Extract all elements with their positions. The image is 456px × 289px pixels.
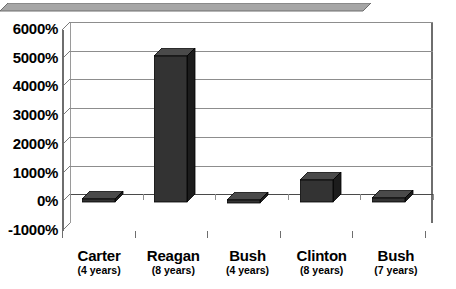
x-tick-back: [360, 194, 361, 200]
x-tick-back: [288, 194, 289, 200]
category-term: (4 years): [210, 265, 284, 276]
y-tick-label: -1000%: [8, 221, 58, 238]
category-term: (8 years): [285, 265, 359, 276]
y-tick-label: 2000%: [13, 135, 58, 152]
y-tick-label: 0%: [37, 192, 58, 209]
bar-bush-2: [227, 192, 270, 205]
y-tick-label: 6000%: [13, 20, 58, 37]
x-tick: [280, 231, 281, 238]
bar-clinton-3: [300, 172, 343, 204]
x-tick: [135, 231, 136, 238]
x-tick-back: [70, 194, 71, 200]
x-tick-back: [433, 194, 434, 200]
chart-floor: [0, 0, 456, 18]
category-name: Bush: [359, 248, 433, 264]
bar-bush-4: [372, 190, 415, 204]
category-label-2: Bush(4 years): [210, 248, 284, 288]
bar-series: [62, 30, 425, 231]
x-tick: [62, 231, 63, 238]
category-term: (7 years): [359, 265, 433, 276]
x-axis-category-labels: Carter(4 years)Reagan(8 years)Bush(4 yea…: [62, 248, 433, 288]
gridline: [70, 22, 433, 23]
x-tick: [425, 231, 426, 238]
category-term: (8 years): [136, 265, 210, 276]
y-tick-label: 4000%: [13, 77, 58, 94]
chart-canvas: 6000%5000%4000%3000%2000%1000%0%-1000% C…: [0, 0, 456, 289]
y-tick-label: 1000%: [13, 164, 58, 181]
x-tick-back: [215, 194, 216, 200]
bar-carter-0: [82, 191, 125, 204]
category-name: Carter: [62, 248, 136, 264]
x-tick: [207, 231, 208, 238]
category-label-0: Carter(4 years): [62, 248, 136, 288]
category-name: Clinton: [285, 248, 359, 264]
category-name: Bush: [210, 248, 284, 264]
x-tick: [352, 231, 353, 238]
category-label-1: Reagan(8 years): [136, 248, 210, 288]
bar-reagan-1: [154, 48, 197, 204]
category-label-4: Bush(7 years): [359, 248, 433, 288]
y-tick-label: 3000%: [13, 106, 58, 123]
category-term: (4 years): [62, 265, 136, 276]
x-tick-back: [143, 194, 144, 200]
category-label-3: Clinton(8 years): [285, 248, 359, 288]
category-name: Reagan: [136, 248, 210, 264]
y-tick-label: 5000%: [13, 49, 58, 66]
